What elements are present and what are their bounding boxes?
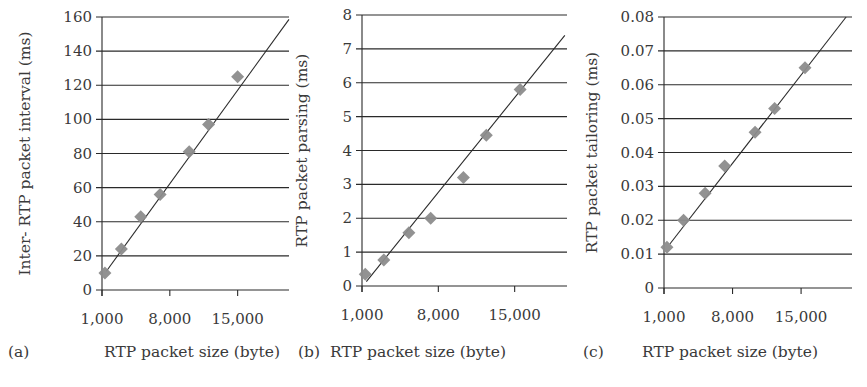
y-tick-label: 6 [342, 74, 352, 92]
x-axis-title: RTP packet size (byte) [104, 343, 280, 361]
diamond-marker [677, 214, 690, 227]
diamond-marker [480, 129, 493, 142]
diamond-marker [660, 241, 673, 254]
y-tick-label: 80 [73, 145, 92, 163]
y-tick-label: 160 [63, 8, 92, 26]
x-axis-title: RTP packet size (byte) [330, 343, 506, 361]
diamond-marker [231, 70, 244, 83]
x-tick-label: 8,000 [148, 310, 191, 328]
y-tick-label: 0 [82, 281, 92, 299]
figure: 0204060801001201401601,0008,00015,000Int… [0, 0, 867, 387]
diamond-marker [134, 210, 147, 223]
x-tick-label: 15,000 [488, 306, 541, 324]
y-tick-label: 40 [73, 213, 92, 231]
panel-label: (c) [583, 343, 604, 361]
diamond-marker [377, 253, 390, 266]
y-tick-label: 20 [73, 247, 92, 265]
chart-panel-b: 0123456781,0008,00015,000RTP packet pars… [293, 6, 567, 361]
diamond-marker [202, 118, 215, 131]
trend-line [366, 35, 564, 281]
y-tick-label: 3 [342, 175, 352, 193]
diamond-marker [718, 160, 731, 173]
y-tick-label: 0.06 [621, 76, 654, 94]
y-tick-label: 0.04 [621, 144, 654, 162]
diamond-marker [359, 268, 372, 281]
y-tick-label: 1 [342, 243, 352, 261]
y-axis-title: RTP packet tailoring (ms) [583, 52, 601, 253]
y-tick-label: 4 [342, 142, 352, 160]
gridlines [356, 15, 567, 286]
gridlines [658, 17, 852, 288]
x-tick-label: 8,000 [417, 306, 460, 324]
y-tick-label: 8 [342, 6, 352, 24]
y-tick-label: 7 [342, 40, 352, 58]
y-tick-label: 0.05 [621, 110, 654, 128]
y-tick-label: 0 [644, 279, 654, 297]
y-tick-label: 100 [63, 110, 92, 128]
y-tick-label: 0.08 [621, 8, 654, 26]
y-tick-label: 0.02 [621, 211, 654, 229]
y-tick-label: 0.07 [621, 42, 654, 60]
x-tick-label: 15,000 [211, 310, 264, 328]
chart-panel-c: 00.010.020.030.040.050.060.070.081,0008,… [583, 8, 852, 361]
x-tick-label: 1,000 [643, 308, 686, 326]
y-tick-label: 0 [342, 277, 352, 295]
x-tick-label: 1,000 [81, 310, 124, 328]
trend-line [106, 19, 289, 271]
x-tick-label: 8,000 [711, 308, 754, 326]
y-axis-title: Inter- RTP packet interval (ms) [16, 31, 34, 275]
data-series [359, 83, 527, 281]
panel-label: (a) [8, 343, 29, 361]
y-axis-title: RTP packet parsing (ms) [293, 54, 311, 248]
diamond-marker [424, 212, 437, 225]
y-tick-label: 60 [73, 179, 92, 197]
diamond-marker [98, 266, 111, 279]
diamond-marker [402, 226, 415, 239]
x-tick-label: 1,000 [341, 306, 384, 324]
y-tick-label: 5 [342, 108, 352, 126]
figure-canvas: 0204060801001201401601,0008,00015,000Int… [0, 0, 867, 387]
x-tick-label: 15,000 [775, 308, 828, 326]
x-axis-title: RTP packet size (byte) [642, 343, 818, 361]
chart-panel-a: 0204060801001201401601,0008,00015,000Int… [8, 8, 289, 361]
y-tick-label: 2 [342, 209, 352, 227]
panel-label: (b) [298, 343, 320, 361]
diamond-marker [183, 145, 196, 158]
y-tick-label: 140 [63, 42, 92, 60]
diamond-marker [699, 187, 712, 200]
y-tick-label: 0.01 [621, 245, 654, 263]
y-tick-label: 120 [63, 76, 92, 94]
y-tick-label: 0.03 [621, 177, 654, 195]
diamond-marker [457, 171, 470, 184]
data-series [98, 70, 244, 279]
